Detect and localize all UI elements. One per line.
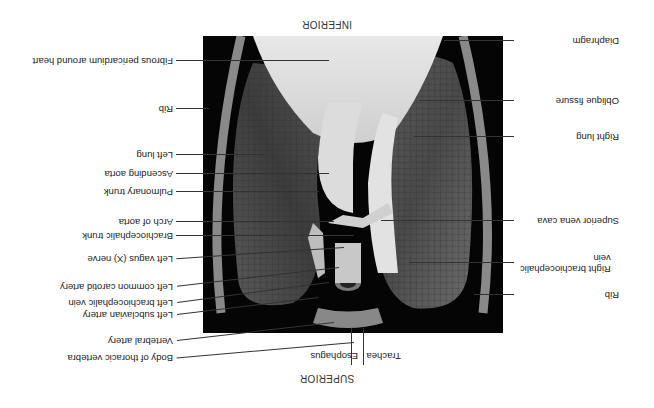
anatomy-figure: SUPERIOR INFERIOR bbox=[0, 0, 654, 408]
leader-line bbox=[176, 173, 329, 174]
label-left-common-carotid: Left common carotid artery bbox=[60, 282, 173, 293]
leader-line bbox=[176, 60, 329, 61]
leader-line bbox=[176, 221, 334, 222]
label-superior-vena-cava: Superior vena cava bbox=[537, 216, 619, 227]
label-diaphragm: Diaphragm bbox=[573, 36, 619, 47]
label-rib-left: Rib bbox=[159, 104, 173, 115]
orientation-inferior: INFERIOR bbox=[277, 19, 377, 30]
label-right-lung: Right lung bbox=[576, 132, 619, 143]
label-rib-right: Rib bbox=[605, 290, 619, 301]
leader-line bbox=[414, 136, 514, 137]
leader-line bbox=[176, 191, 319, 192]
leader-line bbox=[176, 154, 264, 155]
label-pulmonary-trunk: Pulmonary trunk bbox=[104, 187, 173, 198]
leader-line bbox=[381, 220, 514, 221]
label-arch-of-aorta: Arch of aorta bbox=[119, 217, 173, 228]
leader-line bbox=[363, 328, 364, 365]
leader-line bbox=[474, 294, 514, 295]
label-right-brachiocephalic-vein: Right brachiocephalic vein bbox=[520, 253, 611, 275]
label-ascending-aorta: Ascending aorta bbox=[104, 169, 173, 180]
label-left-brachiocephalic-vein: Left brachiocephalic vein bbox=[68, 298, 173, 309]
leader-line bbox=[419, 100, 514, 101]
label-oblique-fissure: Oblique fissure bbox=[556, 96, 619, 107]
label-left-vagus-nerve: Left vagus (X) nerve bbox=[87, 254, 173, 265]
label-fibrous-pericardium: Fibrous pericardium around heart bbox=[33, 56, 173, 67]
label-left-subclavian-artery: Left subclavian artery bbox=[83, 310, 173, 321]
label-trachea: Trachea bbox=[367, 351, 402, 362]
leader-line bbox=[409, 262, 514, 263]
label-vertebral-artery: Vertebral artery bbox=[108, 336, 173, 347]
label-left-lung: Left lung bbox=[137, 150, 173, 161]
leader-line bbox=[176, 235, 354, 236]
leader-line bbox=[176, 108, 209, 109]
label-esophagus: Esophagus bbox=[310, 351, 358, 362]
leader-line bbox=[444, 40, 514, 41]
orientation-superior: SUPERIOR bbox=[277, 373, 377, 384]
thorax-dissection-image bbox=[203, 36, 503, 333]
label-body-thoracic-vertebra: Body of thoracic vertebra bbox=[67, 353, 173, 364]
dissection-photo bbox=[203, 36, 503, 333]
label-brachiocephalic-trunk: Brachiocephalic trunk bbox=[82, 231, 173, 242]
